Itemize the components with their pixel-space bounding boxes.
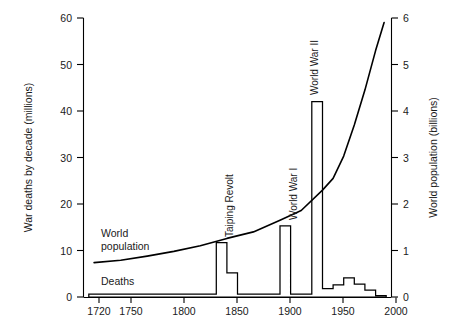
- chart-container: 60 50 40 30 20 10 0 War deaths by decade…: [0, 0, 453, 333]
- right-axis-label-0: 0: [403, 291, 409, 303]
- left-axis-title: War deaths by decade (millions): [22, 83, 34, 233]
- annotation-taiping-revolt: Taiping Revolt: [224, 174, 235, 237]
- x-axis-label-1800: 1800: [172, 305, 196, 317]
- x-axis-label-1720: 1720: [87, 305, 111, 317]
- right-axis-label-3: 3: [403, 152, 409, 164]
- left-axis-label-30: 30: [60, 152, 72, 164]
- x-axis-label-1850: 1850: [225, 305, 249, 317]
- x-axis-label-2000: 2000: [384, 305, 408, 317]
- left-axis-label-0: 0: [66, 291, 72, 303]
- x-axis-label-1950: 1950: [331, 305, 355, 317]
- right-axis-label-6: 6: [403, 12, 409, 24]
- deaths-label: Deaths: [101, 275, 134, 287]
- right-axis-label-5: 5: [403, 59, 409, 71]
- world-population-label-line2: population: [101, 240, 150, 252]
- annotation-world-war-2: World War II: [309, 40, 320, 95]
- left-axis-label-40: 40: [60, 105, 72, 117]
- right-axis-label-2: 2: [403, 198, 409, 210]
- right-axis-label-4: 4: [403, 105, 409, 117]
- left-axis-label-60: 60: [60, 12, 72, 24]
- right-axis-label-1: 1: [403, 245, 409, 257]
- right-axis-title: World population (billions): [427, 97, 439, 218]
- left-axis-label-10: 10: [60, 245, 72, 257]
- world-population-label-line1: World: [101, 227, 128, 239]
- left-axis-label-20: 20: [60, 198, 72, 210]
- annotation-world-war-1: World War I: [288, 168, 299, 220]
- war-deaths-population-chart: 60 50 40 30 20 10 0 War deaths by decade…: [0, 0, 453, 333]
- chart-background: [0, 0, 453, 333]
- x-axis-label-1750: 1750: [119, 305, 143, 317]
- x-axis-label-1900: 1900: [278, 305, 302, 317]
- left-axis-label-50: 50: [60, 59, 72, 71]
